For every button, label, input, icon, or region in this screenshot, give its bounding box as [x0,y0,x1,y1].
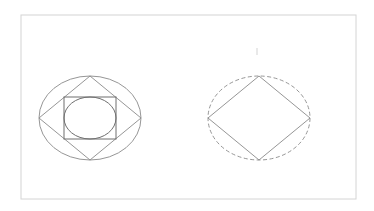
right-dashed-ellipse [208,76,310,160]
frame-border [21,15,356,199]
right-diamond [208,76,310,160]
diagram-canvas [0,0,374,211]
left-diamond [39,76,141,160]
left-figure [39,76,141,160]
right-figure [208,76,310,160]
left-outer-ellipse [39,76,141,160]
left-inner-ellipse [64,97,116,139]
